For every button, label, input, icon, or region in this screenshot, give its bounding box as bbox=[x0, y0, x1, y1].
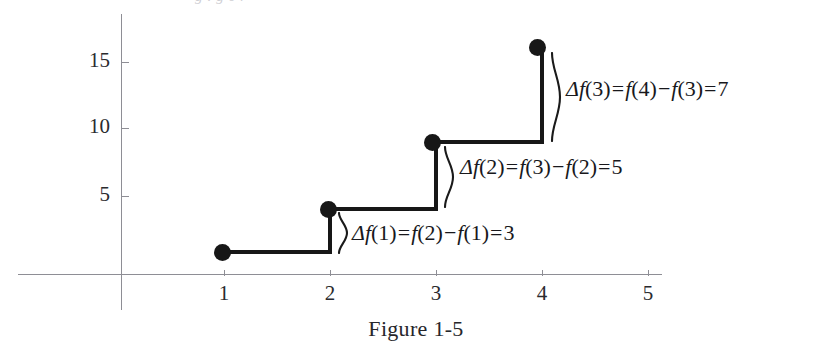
annotation-2-result: 5 bbox=[612, 154, 623, 179]
data-point-4 bbox=[529, 39, 546, 56]
annotation-2-minus: − bbox=[551, 154, 565, 179]
x-tick-1 bbox=[224, 270, 225, 276]
annotation-1-result: 3 bbox=[504, 220, 515, 245]
annotation-3-arg1: (3) bbox=[585, 76, 611, 101]
x-tick-3 bbox=[436, 270, 437, 276]
annotation-1-arg3: (1) bbox=[463, 220, 489, 245]
step-h-2-to-3 bbox=[328, 207, 436, 211]
data-point-2 bbox=[320, 201, 337, 218]
step-h-3-to-4 bbox=[434, 140, 542, 144]
annotation-3-minus: − bbox=[657, 76, 671, 101]
brace-delta-f-3 bbox=[549, 52, 563, 142]
annotation-2-eq1: = bbox=[505, 154, 519, 179]
brace-delta-f-1 bbox=[336, 212, 350, 254]
annotation-3-eq1: = bbox=[611, 76, 625, 101]
annotation-1-arg2: (2) bbox=[417, 220, 443, 245]
x-tick-label-3: 3 bbox=[416, 281, 456, 306]
x-tick-2 bbox=[330, 270, 331, 276]
annotation-1-eq2: = bbox=[489, 220, 503, 245]
x-tick-label-5: 5 bbox=[628, 281, 668, 306]
annotation-3-result: 7 bbox=[718, 76, 729, 101]
step-function-plot: 15 10 5 1 2 3 4 5 bbox=[0, 0, 832, 352]
y-tick-label-10: 10 bbox=[52, 114, 110, 139]
y-tick-5 bbox=[122, 196, 129, 197]
annotation-3-eq2: = bbox=[703, 76, 717, 101]
y-tick-10 bbox=[122, 128, 129, 129]
annotation-2-arg3: (2) bbox=[571, 154, 597, 179]
annotation-2-arg2: (3) bbox=[525, 154, 551, 179]
annotation-1-minus: − bbox=[443, 220, 457, 245]
annotation-1-arg1: (1) bbox=[371, 220, 397, 245]
annotation-2-delta: Δ bbox=[460, 154, 473, 179]
annotation-2-arg1: (2) bbox=[479, 154, 505, 179]
annotation-1-delta: Δ bbox=[352, 220, 365, 245]
x-tick-4 bbox=[542, 270, 543, 276]
annotation-3-arg2: (4) bbox=[631, 76, 657, 101]
x-tick-label-4: 4 bbox=[522, 281, 562, 306]
y-tick-15 bbox=[122, 62, 129, 63]
brace-delta-f-2 bbox=[442, 146, 456, 208]
y-axis-line bbox=[121, 14, 122, 310]
step-h-1-to-2 bbox=[222, 250, 330, 254]
annotation-3-delta: Δ bbox=[566, 76, 579, 101]
annotation-delta-f-1: Δf(1)=f(2)−f(1)=3 bbox=[352, 220, 515, 246]
y-tick-label-5: 5 bbox=[52, 182, 110, 207]
data-point-3 bbox=[424, 134, 441, 151]
annotation-1-eq1: = bbox=[397, 220, 411, 245]
data-point-1 bbox=[214, 244, 231, 261]
y-tick-label-15: 15 bbox=[52, 48, 110, 73]
annotation-delta-f-3: Δf(3)=f(4)−f(3)=7 bbox=[566, 76, 729, 102]
step-v-at-4 bbox=[540, 47, 544, 144]
annotation-delta-f-2: Δf(2)=f(3)−f(2)=5 bbox=[460, 154, 623, 180]
figure-caption: Figure 1-5 bbox=[0, 316, 832, 342]
x-tick-label-2: 2 bbox=[310, 281, 350, 306]
x-axis-line bbox=[18, 274, 662, 275]
annotation-2-eq2: = bbox=[597, 154, 611, 179]
x-tick-label-1: 1 bbox=[204, 281, 244, 306]
annotation-3-arg3: (3) bbox=[677, 76, 703, 101]
figure-container: g . g c r 15 10 5 1 2 3 4 5 bbox=[0, 0, 832, 352]
x-tick-5 bbox=[648, 270, 649, 276]
step-v-at-3 bbox=[434, 142, 438, 211]
